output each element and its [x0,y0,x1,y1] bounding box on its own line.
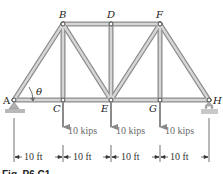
load-arrows [63,102,160,127]
load-label-c: 10 kips [68,125,97,136]
dimension-label-4: 10 ft [170,151,189,162]
joint-label-d: D [106,9,115,20]
load-label-g: 10 kips [165,125,194,136]
joint-label-a: A [2,95,11,106]
joint-label-h: H [212,95,222,106]
joint-label-e: E [100,103,109,114]
truss-members [14,24,209,100]
dimension-label-1: 10 ft [24,151,43,162]
dimension-label-2: 10 ft [73,151,92,162]
joint-label-c: C [53,103,61,114]
figure-caption: Fig. P6.C1 [2,169,51,174]
joint-label-g: G [149,103,157,114]
joint-label-b: B [58,9,66,20]
joint-label-f: F [155,9,164,20]
load-label-e: 10 kips [116,125,145,136]
angle-label: θ [36,86,42,97]
truss-diagram: θ A B D F C E G H 10 kips 10 kips 10 kip… [0,0,223,174]
dimension-label-3: 10 ft [121,151,140,162]
